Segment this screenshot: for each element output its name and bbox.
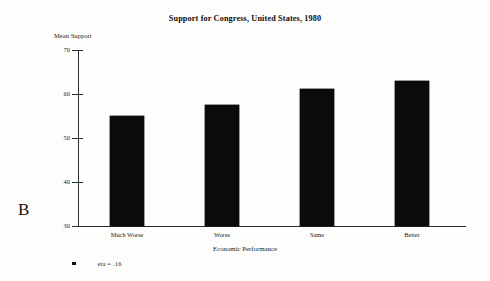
bar-worse (205, 105, 239, 226)
y-tick-40 (72, 182, 83, 183)
bar-better (395, 81, 429, 226)
square-bullet-icon (72, 262, 76, 266)
y-tick-label-30: 30 (52, 222, 70, 229)
x-category-label-2: Same (277, 231, 357, 238)
x-category-label-1: Worse (182, 231, 262, 238)
y-axis-title: Mean Support (54, 32, 92, 39)
y-tick-70 (72, 50, 83, 51)
x-axis-title: Economic Performance (0, 245, 490, 252)
footnote-text: eta = .16 (98, 260, 122, 267)
x-category-label-3: Better (372, 231, 452, 238)
bar-same (300, 89, 334, 226)
x-axis-line (78, 226, 466, 227)
y-tick-50 (72, 138, 83, 139)
y-tick-label-40: 40 (52, 178, 70, 185)
footnote: eta = .16 (72, 260, 122, 267)
bar-chart-plot: Mean Support 3040506070 Much WorseWorseS… (0, 0, 490, 281)
bar-much-worse (110, 116, 144, 226)
y-tick-label-60: 60 (52, 90, 70, 97)
y-tick-60 (72, 94, 83, 95)
y-tick-label-50: 50 (52, 134, 70, 141)
x-category-label-0: Much Worse (87, 231, 167, 238)
y-tick-30 (72, 226, 83, 227)
y-tick-label-70: 70 (52, 46, 70, 53)
